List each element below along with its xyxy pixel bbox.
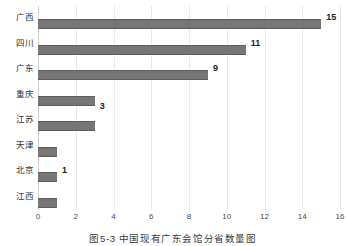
bar-row <box>38 38 340 64</box>
x-tick-label: 8 <box>187 212 191 222</box>
chart-plot-area <box>38 6 340 210</box>
bar-row <box>38 114 340 140</box>
bar[interactable] <box>38 198 57 208</box>
bar-row <box>38 12 340 38</box>
bar-value-label: 11 <box>251 38 261 48</box>
category-label: 江西 <box>0 191 34 201</box>
bar-value-label: 9 <box>213 63 218 73</box>
figure-caption: 图5-3 中国现有广东会馆分省数量图 <box>0 232 346 245</box>
bar[interactable] <box>38 19 321 29</box>
category-label: 四川 <box>0 38 34 48</box>
bar[interactable] <box>38 121 95 131</box>
x-tick-label: 6 <box>149 212 153 222</box>
bar-value-label: 15 <box>326 12 336 22</box>
bar[interactable] <box>38 172 57 182</box>
gridline-16 <box>340 6 341 210</box>
category-label: 广西 <box>0 12 34 22</box>
x-tick-label: 4 <box>111 212 115 222</box>
category-label: 江苏 <box>0 114 34 124</box>
bar-row <box>38 89 340 115</box>
x-tick-label: 10 <box>222 212 231 222</box>
x-tick-label: 16 <box>336 212 345 222</box>
figure-container: 0246810121416 图5-3 中国现有广东会馆分省数量图 广西四川广东重… <box>0 0 346 246</box>
x-tick-label: 12 <box>260 212 269 222</box>
bar-value-label: 3 <box>100 101 105 111</box>
category-label: 广东 <box>0 63 34 73</box>
bar-row <box>38 165 340 191</box>
bar[interactable] <box>38 96 95 106</box>
x-axis-tick-labels: 0246810121416 <box>38 212 340 226</box>
bar-row <box>38 63 340 89</box>
bar[interactable] <box>38 70 208 80</box>
x-tick-label: 0 <box>36 212 40 222</box>
x-tick-label: 14 <box>298 212 307 222</box>
bar-value-label: 1 <box>62 165 67 175</box>
bar-row <box>38 140 340 166</box>
bar[interactable] <box>38 45 246 55</box>
category-label: 北京 <box>0 165 34 175</box>
category-label: 重庆 <box>0 89 34 99</box>
bar[interactable] <box>38 147 57 157</box>
category-label: 天津 <box>0 140 34 150</box>
x-tick-label: 2 <box>74 212 78 222</box>
